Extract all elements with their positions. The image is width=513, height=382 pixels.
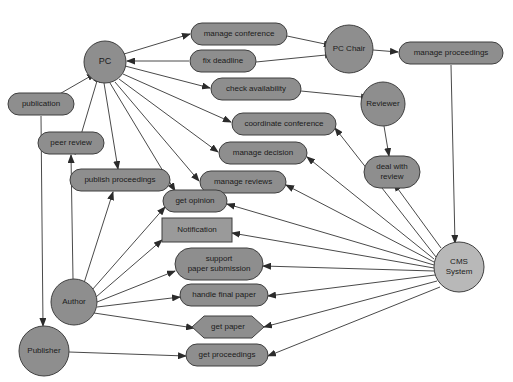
reviewer-shape[interactable] — [361, 82, 405, 126]
manage_proceedings-shape[interactable] — [399, 42, 503, 64]
node-peer_review[interactable]: peer review — [38, 132, 104, 154]
node-deal_with_review[interactable]: deal withreview — [364, 156, 420, 188]
diagram-canvas: PCpublicationpeer reviewpublish proceedi… — [0, 0, 513, 382]
get_proceedings-shape[interactable] — [186, 344, 268, 366]
edge-reviewer-to-deal_with_review — [384, 126, 389, 156]
node-handle_final_paper[interactable]: handle final paper — [180, 284, 268, 306]
node-check_availability[interactable]: check availability — [211, 78, 301, 100]
edge-pc_chair-to-fix_deadline — [256, 55, 326, 62]
node-publication[interactable]: publication — [8, 93, 74, 115]
get_opinion-shape[interactable] — [163, 190, 227, 212]
check_availability-shape[interactable] — [211, 78, 301, 100]
edge-reviewer-to-check_availability — [301, 91, 362, 97]
publisher-shape[interactable] — [19, 326, 69, 376]
node-get_proceedings[interactable]: get proceedings — [186, 344, 268, 366]
node-coordinate_conference[interactable]: coordinate conference — [232, 113, 336, 135]
node-reviewer[interactable]: Reviewer — [361, 82, 405, 126]
edge-publisher-to-get_proceedings — [69, 352, 186, 356]
deal_with_review-shape[interactable] — [364, 156, 420, 188]
edge-cms_system-to-manage_reviews — [286, 185, 434, 262]
coordinate_conference-shape[interactable] — [232, 113, 336, 135]
node-get_paper[interactable]: get paper — [192, 316, 264, 338]
edge-author-to-get_opinion — [92, 207, 165, 290]
edge-pc_chair-to-manage_conference — [287, 36, 325, 44]
node-layer: PCpublicationpeer reviewpublish proceedi… — [8, 23, 503, 376]
peer_review-shape[interactable] — [38, 132, 104, 154]
node-author[interactable]: Author — [51, 279, 97, 325]
node-cms_system[interactable]: CMSSystem — [434, 242, 484, 292]
pc-shape[interactable] — [84, 41, 126, 83]
node-pc_chair[interactable]: PC Chair — [325, 25, 373, 73]
edge-pc-to-manage_conference — [124, 34, 190, 54]
node-publisher[interactable]: Publisher — [19, 326, 69, 376]
edge-manage_proceedings-to-cms_system — [451, 65, 455, 243]
edge-cms_system-to-handle_final_paper — [268, 275, 435, 296]
edge-pc-to-publish_proceedings — [104, 83, 118, 169]
node-manage_conference[interactable]: manage conference — [191, 23, 287, 45]
publish_proceedings-shape[interactable] — [70, 169, 170, 191]
node-manage_decision[interactable]: manage decision — [219, 142, 307, 164]
use-case-diagram: PCpublicationpeer reviewpublish proceedi… — [0, 0, 513, 382]
node-fix_deadline[interactable]: fix deadline — [190, 50, 256, 72]
edge-pc-to-manage_reviews — [115, 82, 199, 181]
edge-cms_system-to-coordinate_conference — [335, 128, 436, 257]
edge-cms_system-to-get_paper — [264, 281, 437, 327]
node-get_opinion[interactable]: get opinion — [163, 190, 227, 212]
node-manage_proceedings[interactable]: manage proceedings — [399, 42, 503, 64]
edge-pc-to-manage_decision — [119, 79, 218, 152]
manage_conference-shape[interactable] — [191, 23, 287, 45]
edge-author-to-get_paper — [94, 313, 194, 328]
get_paper-shape[interactable] — [192, 316, 264, 338]
manage_decision-shape[interactable] — [219, 142, 307, 164]
edge-deal_with_review-to-cms_system — [398, 189, 441, 248]
author-shape[interactable] — [51, 279, 97, 325]
node-publish_proceedings[interactable]: publish proceedings — [70, 169, 170, 191]
fix_deadline-shape[interactable] — [190, 50, 256, 72]
edge-cms_system-to-get_proceedings — [268, 287, 440, 356]
node-support_paper_submission[interactable]: supportpaper submission — [175, 248, 263, 280]
publication-shape[interactable] — [8, 93, 74, 115]
handle_final_paper-shape[interactable] — [180, 284, 268, 306]
edge-author-to-publish_proceedings — [84, 192, 113, 283]
edge-author-to-handle_final_paper — [97, 297, 180, 307]
notification-shape[interactable] — [162, 218, 232, 242]
node-notification[interactable]: Notification — [162, 218, 232, 242]
cms_system-shape[interactable] — [434, 242, 484, 292]
pc_chair-shape[interactable] — [325, 25, 373, 73]
node-pc[interactable]: PC — [84, 41, 126, 83]
edge-cms_system-to-support_paper_submission — [263, 266, 434, 271]
edge-pc_chair-to-manage_proceedings — [373, 50, 398, 52]
support_paper_submission-shape[interactable] — [175, 248, 263, 280]
